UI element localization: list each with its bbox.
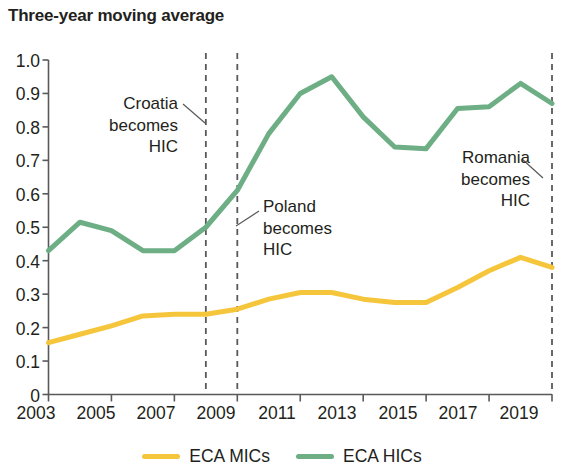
annotation-poland: Poland becomes HIC [263,196,393,261]
legend-swatch-icon [142,454,180,459]
legend-label: ECA HICs [343,446,422,467]
legend-item-eca-hics[interactable]: ECA HICs [296,446,422,467]
annotation-croatia: Croatia becomes HIC [58,93,178,158]
annotation-romania: Romania becomes HIC [400,147,530,212]
legend-label: ECA MICs [189,446,270,467]
chart-legend: ECA MICs ECA HICs [0,446,564,467]
chart-container: Three-year moving average 1.0 0.9 0.8 0.… [0,0,564,475]
x-axis-ticks [49,395,553,402]
legend-item-eca-mics[interactable]: ECA MICs [142,446,270,467]
legend-swatch-icon [296,454,334,459]
